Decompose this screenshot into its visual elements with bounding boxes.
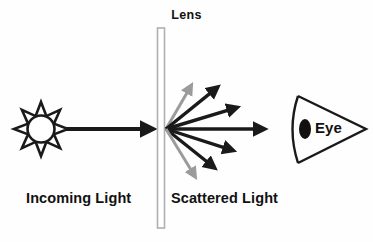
scattered-light-label: Scattered Light bbox=[171, 190, 278, 206]
scatter-ray-ray-down-mid bbox=[166, 129, 214, 167]
eye-label: Eye bbox=[315, 119, 342, 136]
lens-label: Lens bbox=[0, 8, 373, 22]
diagram-canvas: Lens Incoming Light Scattered Light Eye bbox=[0, 0, 373, 242]
eye-pupil bbox=[299, 119, 311, 139]
incoming-light-label: Incoming Light bbox=[26, 190, 131, 206]
lens-bar bbox=[158, 28, 165, 228]
sun-disc bbox=[28, 116, 55, 143]
sun-icon bbox=[14, 102, 68, 156]
scattered-light-rays bbox=[166, 86, 264, 177]
